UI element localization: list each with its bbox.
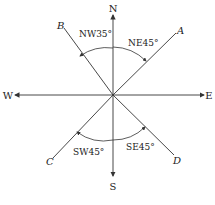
south-label: S [110,181,117,192]
east-label: E [205,90,212,101]
arc-ne [113,47,146,61]
label-b: B [56,20,64,31]
north-label: N [109,3,118,14]
bearing-diagram: N S E W A B C D NE45° NW35° SW45° SE45° [0,0,215,205]
label-c: C [46,156,54,167]
arc-nw [80,48,113,56]
bearing-d: SE45° [126,142,155,152]
bearing-c: SW45° [73,147,104,157]
label-a: A [176,25,184,36]
bearing-b: NW35° [79,29,112,39]
label-d: D [172,155,181,166]
bearing-a: NE45° [128,38,158,48]
arc-se [113,127,145,140]
west-label: W [3,90,14,101]
arc-sw [77,132,113,141]
